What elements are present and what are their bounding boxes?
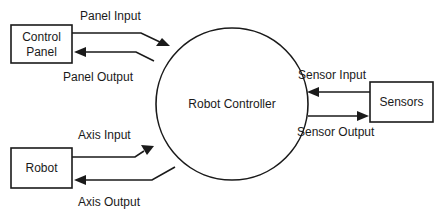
sensors-entity: Sensors — [370, 82, 433, 122]
panel-input-line — [72, 33, 162, 43]
robot-label: Robot — [25, 161, 58, 175]
panel-output-line — [84, 52, 154, 61]
robot-controller-label: Robot Controller — [188, 97, 275, 111]
axis-input-line — [72, 151, 144, 157]
context-diagram: Robot Controller Control Panel Robot Sen… — [0, 0, 447, 215]
arrowhead-icon — [357, 111, 369, 121]
sensors-label: Sensors — [379, 95, 423, 109]
control-panel-label-line2: Panel — [26, 45, 57, 59]
axis-output-label: Axis Output — [78, 195, 141, 209]
sensor-input-label: Sensor Input — [298, 68, 367, 82]
axis-output-line — [84, 167, 175, 180]
panel-output-flow: Panel Output — [63, 47, 154, 84]
sensor-output-label: Sensor Output — [297, 125, 375, 139]
panel-output-label: Panel Output — [63, 70, 134, 84]
arrowhead-icon — [74, 47, 86, 57]
control-panel-entity: Control Panel — [11, 25, 72, 63]
sensor-input-flow: Sensor Input — [298, 68, 370, 97]
panel-input-flow: Panel Input — [72, 9, 170, 46]
panel-input-label: Panel Input — [80, 9, 141, 23]
robot-controller-process: Robot Controller — [156, 28, 308, 180]
control-panel-label-line1: Control — [22, 30, 61, 44]
arrowhead-icon — [307, 87, 319, 97]
arrowhead-icon — [141, 145, 154, 155]
arrowhead-icon — [74, 175, 86, 185]
robot-entity: Robot — [11, 148, 72, 188]
sensor-output-flow: Sensor Output — [297, 111, 375, 139]
axis-output-flow: Axis Output — [74, 167, 175, 209]
axis-input-label: Axis Input — [78, 128, 131, 142]
axis-input-flow: Axis Input — [72, 128, 154, 157]
